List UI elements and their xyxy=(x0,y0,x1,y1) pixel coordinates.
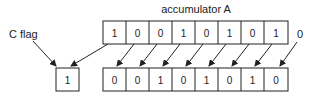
accumulator-title: accumulator A xyxy=(161,3,231,15)
bit-before-3: 0 xyxy=(204,28,210,39)
bit-after-4: 0 xyxy=(181,75,187,86)
carry-flag-box: 1 xyxy=(56,68,79,91)
shift-in-zero: 0 xyxy=(297,28,303,40)
bit-after-6: 0 xyxy=(135,75,141,86)
carry-label-arrow xyxy=(33,41,56,66)
bit-before-7: 1 xyxy=(112,28,118,39)
zero-in-arrow xyxy=(280,42,297,66)
carry-value: 1 xyxy=(65,75,71,86)
bit-before-1: 0 xyxy=(250,28,256,39)
shift-left-diagram: accumulator A C flag 0 1 0 0 1 0 1 0 1 1… xyxy=(0,0,316,102)
bit-after-0: 0 xyxy=(273,75,279,86)
bit-before-6: 0 xyxy=(135,28,141,39)
bit-before-4: 1 xyxy=(181,28,187,39)
accumulator-before-row: 1 0 0 1 0 1 0 1 xyxy=(103,21,288,44)
bit-before-5: 0 xyxy=(158,28,164,39)
bit-after-3: 1 xyxy=(204,75,210,86)
msb-to-carry-arrow xyxy=(71,44,108,66)
bit-after-2: 0 xyxy=(227,75,233,86)
shift-arrows xyxy=(33,41,297,66)
bit-after-1: 1 xyxy=(250,75,256,86)
bit-after-7: 0 xyxy=(112,75,118,86)
accumulator-after-row: 0 0 1 0 1 0 1 0 xyxy=(103,68,288,91)
bit-before-0: 1 xyxy=(273,28,279,39)
carry-flag-label: C flag xyxy=(9,28,38,40)
bit-before-2: 1 xyxy=(227,28,233,39)
bit-after-5: 1 xyxy=(158,75,164,86)
